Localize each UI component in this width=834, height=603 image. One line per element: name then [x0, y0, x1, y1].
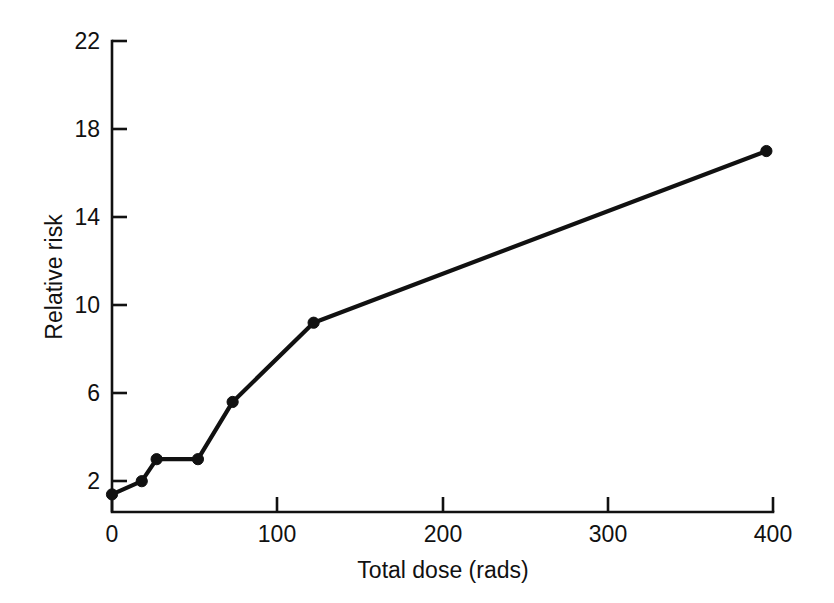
ytick-label-6: 6: [87, 380, 100, 406]
data-point: [192, 454, 203, 465]
data-point: [308, 317, 319, 328]
y-axis-title: Relative risk: [41, 214, 67, 340]
xtick-label-0: 0: [106, 521, 119, 547]
data-series: [106, 145, 772, 500]
chart-figure: 22 18 14 10 6 2 0 100 200 300 400 Total …: [0, 0, 834, 603]
ytick-label-2: 2: [87, 468, 100, 494]
xtick-label-300: 300: [589, 521, 627, 547]
x-axis-title: Total dose (rads): [357, 557, 528, 583]
ytick-label-18: 18: [74, 116, 100, 142]
xtick-label-100: 100: [258, 521, 296, 547]
ytick-label-14: 14: [74, 204, 100, 230]
xtick-label-400: 400: [754, 521, 792, 547]
ytick-label-10: 10: [74, 292, 100, 318]
data-point: [151, 454, 162, 465]
data-point: [136, 476, 147, 487]
data-point: [227, 396, 238, 407]
series-line: [112, 151, 766, 494]
data-point: [106, 489, 117, 500]
relative-risk-line-chart: 22 18 14 10 6 2 0 100 200 300 400 Total …: [0, 0, 834, 603]
xtick-label-200: 200: [424, 521, 462, 547]
ytick-label-22: 22: [74, 28, 100, 54]
data-point: [761, 145, 772, 156]
